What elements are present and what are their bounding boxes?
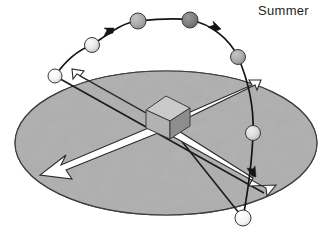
sun-noon bbox=[182, 12, 198, 28]
orbit-direction-arrow-left bbox=[104, 28, 114, 36]
summer-sun-path-diagram bbox=[0, 0, 329, 236]
horizon-disc-texture bbox=[15, 71, 317, 215]
season-label-summer: Summer bbox=[258, 3, 309, 18]
sun-midmorning bbox=[130, 13, 146, 29]
sun-evening bbox=[246, 126, 261, 141]
sun-set bbox=[235, 210, 251, 226]
orbit-direction-arrow-top bbox=[208, 21, 221, 31]
horizon-disc-group bbox=[15, 71, 317, 215]
figure-canvas: Summer bbox=[0, 0, 329, 236]
sun-rise bbox=[48, 69, 62, 83]
sun-afternoon bbox=[231, 50, 246, 65]
sun-morning bbox=[85, 38, 100, 53]
disc-soft-noise-layer bbox=[15, 71, 317, 215]
